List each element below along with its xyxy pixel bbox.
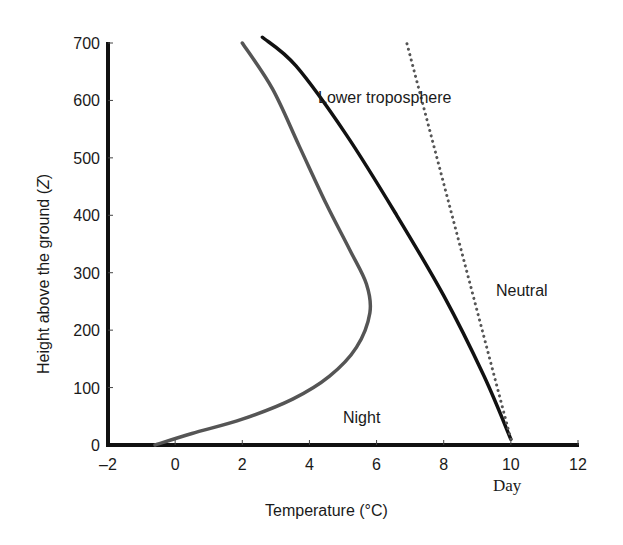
x-tick-label: 2 [238, 456, 247, 473]
y-tick-label: 0 [91, 437, 100, 454]
y-tick-label: 200 [73, 322, 100, 339]
x-tick-label: 0 [171, 456, 180, 473]
y-tick-label: 600 [73, 92, 100, 109]
y-tick-label: 400 [73, 207, 100, 224]
x-tick-label: 6 [372, 456, 381, 473]
y-tick-label: 100 [73, 380, 100, 397]
y-tick-label: 500 [73, 150, 100, 167]
annotation-day: Day [493, 476, 522, 495]
annotation-lower-troposphere: Lower troposphere [318, 89, 452, 106]
annotation-neutral: Neutral [496, 282, 548, 299]
annotation-night: Night [343, 409, 381, 426]
temperature-profile-chart: 0100200300400500600700–2024681012 Lower … [0, 0, 623, 545]
y-tick-label: 300 [73, 265, 100, 282]
y-axis-title: Height above the ground (Z) [35, 174, 52, 374]
x-axis-title: Temperature (°C) [265, 502, 388, 519]
x-tick-label: 8 [439, 456, 448, 473]
x-tick-label: 4 [305, 456, 314, 473]
x-tick-label: 10 [502, 456, 520, 473]
y-tick-label: 700 [73, 35, 100, 52]
x-tick-label: –2 [99, 456, 117, 473]
x-tick-label: 12 [569, 456, 587, 473]
